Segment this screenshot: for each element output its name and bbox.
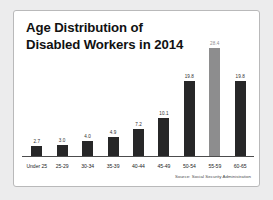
bar xyxy=(184,81,195,156)
x-axis-line xyxy=(22,156,254,157)
bar-slot: 7.2 xyxy=(126,39,151,156)
bar-slot: 28.4 xyxy=(202,39,227,156)
bar xyxy=(82,141,93,156)
bar-slot: 3.0 xyxy=(49,39,74,156)
bar-slot: 4.9 xyxy=(100,39,125,156)
bar-slot: 2.7 xyxy=(24,39,49,156)
x-axis-tick-label: 50-54 xyxy=(177,163,202,169)
x-axis-tick-label: 40-44 xyxy=(126,163,151,169)
bar-value-label: 10.1 xyxy=(159,112,168,117)
bar-value-label: 19.8 xyxy=(185,75,194,80)
x-axis-tick-label: Under 25 xyxy=(24,163,49,169)
bar-slot: 19.8 xyxy=(228,39,253,156)
bar-value-label: 3.0 xyxy=(59,139,66,144)
x-axis-tick-label: 60-65 xyxy=(228,163,253,169)
bar-slot: 19.8 xyxy=(177,39,202,156)
x-axis-tick-label: 25-29 xyxy=(49,163,74,169)
bar-value-label: 2.7 xyxy=(33,140,40,145)
bar-value-label: 19.8 xyxy=(236,75,245,80)
chart-title-line-1: Age Distribution of xyxy=(26,20,201,37)
bar-series: 2.73.04.04.97.210.119.828.419.8 xyxy=(24,39,253,156)
chart-plot-area: 2.73.04.04.97.210.119.828.419.8 xyxy=(24,39,253,156)
bar xyxy=(31,146,42,156)
bar xyxy=(57,145,68,156)
source-note: Source: Social Security Administration xyxy=(175,174,251,179)
x-axis-tick-label: 30-34 xyxy=(75,163,100,169)
bar xyxy=(209,48,220,156)
bar-value-label: 28.4 xyxy=(210,42,219,47)
bar xyxy=(235,81,246,156)
bar-value-label: 4.0 xyxy=(84,135,91,140)
chart-card: Age Distribution of Disabled Workers in … xyxy=(13,10,260,187)
bar xyxy=(158,118,169,156)
bar-value-label: 4.9 xyxy=(110,131,117,136)
bar-slot: 10.1 xyxy=(151,39,176,156)
x-axis-tick-labels: Under 2525-2930-3435-3940-4445-4950-5455… xyxy=(24,163,253,169)
bar-value-label: 7.2 xyxy=(135,123,142,128)
x-axis-tick-label: 35-39 xyxy=(100,163,125,169)
bar xyxy=(108,137,119,156)
x-axis-tick-label: 45-49 xyxy=(151,163,176,169)
bar-slot: 4.0 xyxy=(75,39,100,156)
x-axis-tick-label: 55-59 xyxy=(202,163,227,169)
bar xyxy=(133,129,144,156)
